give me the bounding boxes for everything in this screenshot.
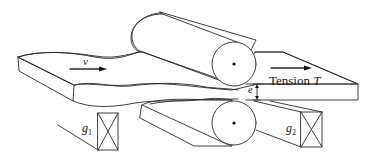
gauge-1-label: g1 — [82, 122, 92, 134]
tension-label-text: Tension — [269, 73, 313, 88]
diagram-drawing — [0, 0, 388, 160]
gauge-2-subscript: 2 — [292, 128, 296, 137]
velocity-label: v — [83, 56, 88, 67]
gauge-2-label: g2 — [286, 122, 296, 134]
gauge-1-subscript: 1 — [88, 128, 92, 137]
tension-symbol: T — [313, 73, 320, 88]
tension-label: Tension T — [269, 74, 320, 87]
rolling-mill-diagram: v Tension T e g1 g2 — [0, 0, 388, 160]
lower-roll — [140, 99, 256, 146]
thickness-label: e — [248, 85, 252, 95]
